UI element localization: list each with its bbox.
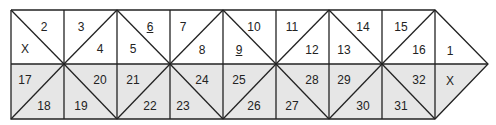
cell-label: 19 [74, 100, 87, 112]
cell-label: 24 [195, 74, 208, 86]
diagonal-line [276, 10, 329, 64]
cell-label: 16 [412, 44, 425, 56]
diagonal-line [64, 10, 117, 64]
cell-label: 2 [41, 21, 48, 33]
diagonal-line [223, 10, 276, 64]
cell-label: 9 [236, 44, 243, 56]
cell-label: 27 [285, 100, 298, 112]
cell-label: 29 [337, 74, 350, 86]
cell-label: 11 [286, 21, 298, 33]
cell-label: 8 [199, 44, 206, 56]
cell-label: 25 [232, 74, 245, 86]
cell-label: 21 [126, 74, 139, 86]
cell-label: 30 [356, 100, 369, 112]
diagonal-line [117, 10, 170, 64]
cell-label: 23 [176, 100, 189, 112]
cell-label: 12 [305, 44, 318, 56]
cell-label: 5 [130, 43, 137, 55]
cell-label: 31 [394, 100, 407, 112]
cell-label: 1 [447, 45, 454, 57]
cell-label: 18 [37, 100, 50, 112]
cell-label: X [446, 75, 454, 87]
cell-label: 14 [356, 21, 369, 33]
cell-label: 10 [247, 21, 260, 33]
cell-label: 28 [305, 74, 318, 86]
diagonal-line [11, 10, 64, 64]
cell-label: 3 [78, 21, 85, 33]
cell-label: 15 [394, 21, 407, 33]
diagonal-line [170, 10, 223, 64]
cell-label: 22 [143, 100, 156, 112]
diagonal-line [382, 10, 435, 64]
cell-label: 20 [93, 74, 106, 86]
cell-label: X [21, 43, 29, 55]
cell-label: 26 [247, 100, 260, 112]
cell-label: 6 [147, 21, 154, 33]
cell-label: 17 [18, 74, 31, 86]
cell-label: 7 [180, 21, 187, 33]
cell-label: 13 [337, 44, 350, 56]
cell-label: 4 [97, 43, 104, 55]
cell-label: 32 [412, 74, 425, 86]
